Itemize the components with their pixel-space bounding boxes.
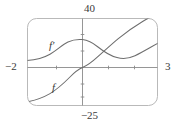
x-min-label: −2	[5, 61, 17, 72]
graph-canvas	[0, 0, 179, 127]
curve-f	[29, 15, 156, 102]
plot-frame	[28, 19, 158, 106]
curve-f-prime	[27, 39, 158, 60]
graph-figure: 40 −25 −2 3 f′ f	[0, 0, 179, 127]
x-max-label: 3	[165, 61, 171, 72]
curve-label-f: f	[52, 82, 55, 93]
curve-label-f-prime: f′	[49, 40, 54, 51]
y-max-label: 40	[0, 3, 179, 14]
y-min-label: −25	[0, 110, 179, 121]
